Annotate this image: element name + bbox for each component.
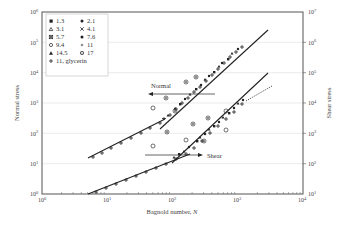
y-tick-label: 102 [30,129,38,137]
chart: 1.3 2.1 3.1 4.1 5.7 7.6 9.4 11 14.5 17 1… [0,0,345,228]
y-left-axis-title: Normal stress [13,85,20,121]
fit-lines [88,30,272,194]
y2-tick-label: 104 [308,99,317,107]
normal-high-N-line [160,30,268,129]
y-right-tick-labels: 101 102 103 104 105 106 107 [308,8,317,198]
legend: 1.3 2.1 3.1 4.1 5.7 7.6 9.4 11 14.5 17 1… [46,14,108,76]
y2-tick-label: 107 [308,8,317,16]
y-tick-label: 106 [30,8,39,16]
normal-low-N-line [88,119,165,158]
x-tick-label: 102 [168,196,176,204]
normal-stress-dense-points [167,48,240,117]
x-tick-label: 100 [38,196,47,204]
y2-tick-label: 102 [308,160,316,168]
legend-label: 7.6 [87,33,96,40]
normal-stress-points [91,45,244,159]
legend-label: 4.1 [87,25,95,32]
normal-label: Normal [151,82,171,89]
legend-marker-filled-dot-icon [81,20,84,23]
shear-high-N-dotted-line [246,86,272,101]
y-tick-label: 101 [30,160,38,168]
legend-label: 9.4 [56,41,65,48]
legend-marker-filled-dot-icon [81,36,84,39]
y-tick-label: 100 [30,190,39,198]
y2-tick-label: 105 [308,69,317,77]
x-axis-title: Bagnold number, N [147,208,199,215]
y-left-tick-labels: 100 101 102 103 104 105 106 [30,8,39,198]
legend-label: 2.1 [87,17,95,24]
x-tick-labels: 100 101 102 103 104 [38,196,307,204]
y2-tick-label: 106 [308,38,317,46]
legend-label: 11 [87,41,93,48]
legend-label: 1.3 [56,17,64,24]
legend-label: 17 [87,49,94,56]
legend-label: 11, glycerin [56,57,88,64]
y-tick-label: 103 [30,99,39,107]
y-tick-label: 105 [30,38,39,46]
arrow-right-icon [198,153,203,157]
legend-label: 5.7 [56,33,65,40]
y-right-axis-title: Shear stress [325,87,332,118]
x-tick-label: 104 [298,196,307,204]
x-tick-label: 101 [103,196,111,204]
legend-label: 14.5 [56,49,67,56]
y2-tick-label: 103 [308,129,317,137]
x-tick-label: 103 [233,196,242,204]
normal-annotation: Normal [148,82,215,96]
shear-high-N-line [172,73,268,163]
shear-label: Shear [207,152,223,159]
legend-label: 3.1 [56,25,64,32]
arrow-left-icon [148,92,153,96]
legend-marker-filled-square-icon [50,20,53,23]
y-tick-label: 104 [30,69,39,77]
y2-tick-label: 101 [308,190,316,198]
